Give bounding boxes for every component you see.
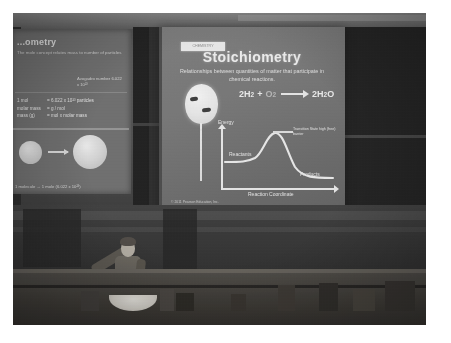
side-row-label: mass (g): [17, 112, 47, 120]
main-projection-screen: CHEMISTRY Stoichiometry Relationships be…: [159, 27, 345, 213]
lecture-hall-photograph: ...ometry The mole concept relates mass …: [13, 13, 426, 325]
side-slide-title: ...ometry: [17, 37, 56, 47]
side-slide-caption: 1 molecule → 1 mole (6.022 x 10²³): [15, 184, 127, 189]
slide-subtitle: Relationships between quantities of matt…: [177, 67, 327, 83]
ceiling-light-bar: [238, 15, 426, 21]
diagram-transition-state-label: Transition State high (free) barrier: [293, 127, 337, 136]
side-row-label: molar mass: [17, 105, 47, 113]
wall-seam-right: [343, 135, 426, 138]
wall-pillar-right: [343, 27, 426, 213]
chemical-equation: 2H2 + O2 2H2O: [239, 89, 343, 99]
molecule-circle-small-icon: [19, 141, 42, 164]
balloon-string: [200, 123, 202, 181]
slide-credit-text: © 2011 Pearson Education, Inc.: [171, 200, 219, 204]
dark-doorway-center: [163, 209, 197, 271]
side-row-value: = g / mol: [47, 105, 127, 113]
list-item: molar mass = g / mol: [17, 105, 127, 113]
bench-object: [176, 293, 194, 311]
side-slide-note: Avogadro number 6.022 x 10²³: [77, 76, 125, 87]
wall-pillar-middle-1: [133, 27, 149, 211]
screenshot-root: ...ometry The mole concept relates mass …: [0, 0, 451, 343]
side-row-value: = 6.022 x 10²³ particles: [47, 97, 127, 105]
wall-pillar-middle-2: [149, 27, 159, 211]
front-bench-rail: [13, 285, 426, 288]
wall-seam-left: [133, 123, 159, 126]
bench-object: [353, 289, 375, 311]
balloon-mark-2: [202, 107, 211, 112]
bench-object: [278, 285, 295, 311]
bench-object: [319, 283, 338, 311]
side-slide-divider-2: [13, 128, 129, 130]
balloon-icon: [185, 84, 218, 124]
equation-reactant-1: 2H2: [239, 89, 254, 99]
equation-arrow-icon: [281, 93, 307, 95]
bench-object: [231, 294, 246, 311]
diagram-y-axis-label: Energy: [218, 119, 234, 125]
lecturer-hair: [120, 237, 136, 246]
diagram-x-axis-label: Reaction Coordinate: [248, 191, 294, 197]
equation-product: 2H2O: [312, 89, 334, 99]
bench-object: [385, 281, 415, 311]
equation-reactant-2: O2: [265, 89, 276, 99]
side-row-label: 1 mol: [17, 97, 47, 105]
bench-object: [160, 289, 174, 311]
molecule-circle-large-icon: [73, 135, 107, 169]
list-item: mass (g) = mol x molar mass: [17, 112, 127, 120]
side-projected-slide: ...ometry The mole concept relates mass …: [13, 29, 131, 194]
conversion-arrow-icon: [48, 151, 68, 153]
slide-title: Stoichiometry: [159, 49, 345, 65]
bench-object: [81, 291, 99, 311]
front-bench-edge: [13, 269, 426, 273]
side-slide-subtitle: The mole concept relates mass to number …: [17, 50, 125, 56]
list-item: 1 mol = 6.022 x 10²³ particles: [17, 97, 127, 105]
side-slide-equation-list: 1 mol = 6.022 x 10²³ particles molar mas…: [17, 97, 127, 120]
side-slide-divider: [15, 92, 127, 93]
balloon-mark-1: [190, 96, 198, 101]
side-row-value: = mol x molar mass: [47, 112, 127, 120]
energy-reaction-diagram: Energy Reactants Products Reaction Coord…: [215, 122, 341, 200]
diagram-reactants-label: Reactants: [229, 151, 252, 157]
equation-plus-sign: +: [257, 89, 262, 99]
transition-state-leader-line: [273, 131, 293, 133]
dark-doorway-left: [23, 209, 81, 267]
diagram-products-label: Products: [300, 171, 320, 177]
